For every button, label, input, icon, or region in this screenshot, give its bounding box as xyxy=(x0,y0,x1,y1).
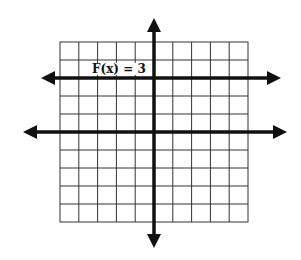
arrow-left-icon xyxy=(41,71,55,85)
arrow-right-icon xyxy=(267,71,281,85)
arrow-down-icon xyxy=(147,234,161,248)
arrow-left-icon xyxy=(23,125,37,139)
function-label: F(x) = 3 xyxy=(91,63,147,75)
arrow-up-icon xyxy=(147,18,161,32)
coordinate-plane xyxy=(0,0,301,260)
arrow-right-icon xyxy=(273,125,287,139)
function-line xyxy=(41,71,281,85)
